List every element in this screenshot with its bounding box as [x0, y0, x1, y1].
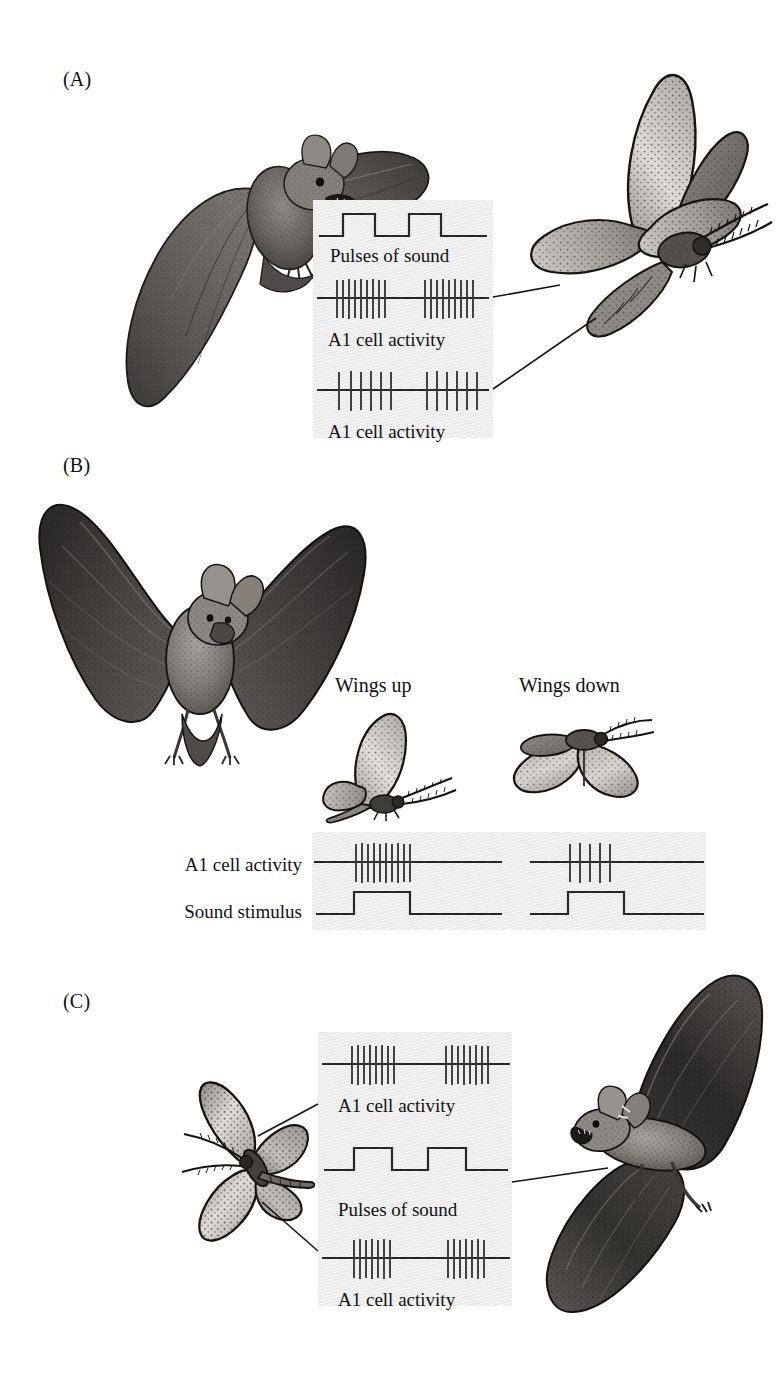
trace-lines-a [313, 200, 493, 438]
panel-a: (A) [0, 0, 780, 440]
a1-cell-activity-label-b: A1 cell activity [130, 855, 302, 874]
trace-caption-a1-lower-c: A1 cell activity [338, 1290, 455, 1309]
moth-illustration-a [510, 66, 778, 366]
panel-c-label: (C) [63, 990, 90, 1013]
panel-c: (C) [0, 960, 780, 1377]
trace-caption-a1-upper-c: A1 cell activity [338, 1096, 455, 1115]
sound-stimulus-label-b: Sound stimulus [130, 902, 302, 921]
trace-caption-pulses-of-sound-c: Pulses of sound [338, 1200, 457, 1219]
trace-lines-c [318, 1032, 512, 1306]
trace-lines-b [312, 832, 706, 930]
figure-root: (A) [0, 0, 780, 1377]
moth-illustration-wings-up [322, 712, 482, 822]
moth-illustration-c [158, 1078, 328, 1248]
panel-a-label: (A) [63, 68, 91, 91]
trace-caption-pulses-of-sound-a: Pulses of sound [330, 246, 449, 265]
trace-caption-a1-upper-a: A1 cell activity [328, 330, 445, 349]
wings-down-caption: Wings down [519, 675, 620, 695]
wings-up-caption: Wings up [335, 675, 411, 695]
bat-illustration-b [22, 478, 370, 768]
moth-illustration-wings-down [500, 718, 660, 818]
bat-illustration-c [538, 966, 780, 1346]
trace-caption-a1-lower-a: A1 cell activity [328, 422, 445, 441]
panel-b: (B) [0, 440, 780, 960]
panel-b-label: (B) [63, 454, 90, 477]
